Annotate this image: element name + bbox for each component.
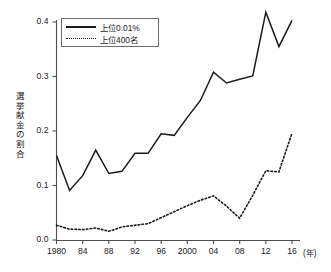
legend-label-top-001-percent: 上位0.01% (100, 21, 140, 33)
legend-item-top-001-percent: 上位0.01% (66, 21, 140, 33)
y-axis-tick-label: 0.3 (25, 71, 49, 81)
chart-plot-area (0, 0, 331, 272)
legend-item-top-400: 上位400名 (66, 33, 138, 45)
y-axis-tick-label: 0.1 (25, 180, 49, 190)
legend-key-solid-line-icon (66, 22, 96, 32)
series-line-top-400 (57, 133, 293, 231)
y-axis-label-char-6: 合 (12, 150, 28, 160)
y-axis-tick-label: 0.4 (25, 16, 49, 26)
legend-key-dotted-line-icon (66, 34, 96, 44)
legend-label-top-400: 上位400名 (100, 33, 138, 45)
y-axis-tick-label: 0.0 (25, 234, 49, 244)
y-axis-ticks (53, 22, 57, 240)
x-axis-unit-label: (年) (303, 246, 316, 258)
chart-figure: 選挙献金の割合 0.00.10.20.30.4 1980848892962000… (0, 0, 331, 272)
chart-legend: 上位0.01% 上位400名 (61, 18, 159, 47)
y-axis-tick-label: 0.2 (25, 125, 49, 135)
